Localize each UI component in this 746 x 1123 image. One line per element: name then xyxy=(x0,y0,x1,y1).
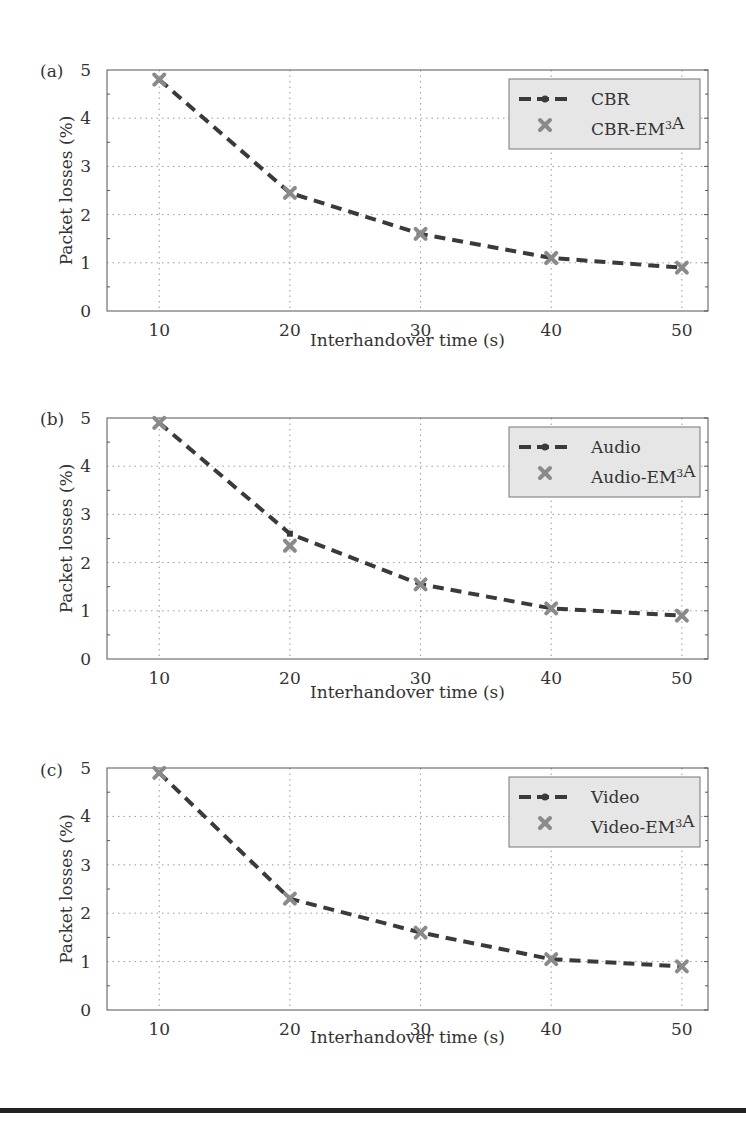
y-tick-label: 3 xyxy=(80,156,91,176)
y-tick-label: 5 xyxy=(80,60,91,80)
y-tick-label: 1 xyxy=(80,253,91,273)
bottom-rule xyxy=(0,1108,746,1113)
x-tick-label: 50 xyxy=(671,320,693,340)
panel-label: (a) xyxy=(40,61,63,81)
y-tick-label: 4 xyxy=(80,108,91,128)
y-axis-label: Packet losses (%) xyxy=(56,116,76,266)
chart-panel-c: 0123451020304050Interhandover time (s)Pa… xyxy=(40,758,708,1047)
y-tick-label: 1 xyxy=(80,952,91,972)
x-tick-label: 20 xyxy=(279,320,301,340)
y-tick-label: 2 xyxy=(80,903,91,923)
legend: AudioAudio-EM3A xyxy=(509,427,700,497)
y-tick-label: 3 xyxy=(80,504,91,524)
chart-panel-a: 0123451020304050Interhandover time (s)Pa… xyxy=(40,60,708,350)
x-tick-label: 10 xyxy=(148,1019,170,1039)
panel-label: (b) xyxy=(40,409,64,429)
x-tick-label: 20 xyxy=(279,1019,301,1039)
y-tick-label: 5 xyxy=(80,758,91,778)
legend: CBRCBR-EM3A xyxy=(509,79,700,149)
y-tick-label: 1 xyxy=(80,601,91,621)
y-axis-label: Packet losses (%) xyxy=(56,814,76,964)
x-marker-icon xyxy=(677,611,687,621)
y-tick-label: 4 xyxy=(80,456,91,476)
x-axis-label: Interhandover time (s) xyxy=(310,1027,505,1047)
x-tick-label: 40 xyxy=(540,668,562,688)
y-tick-label: 2 xyxy=(80,205,91,225)
x-marker-icon xyxy=(285,541,295,551)
x-tick-label: 50 xyxy=(671,668,693,688)
y-tick-label: 0 xyxy=(80,301,91,321)
y-tick-label: 3 xyxy=(80,855,91,875)
figure: 0123451020304050Interhandover time (s)Pa… xyxy=(0,0,746,1123)
y-tick-label: 2 xyxy=(80,553,91,573)
y-axis-label: Packet losses (%) xyxy=(56,464,76,614)
x-tick-label: 10 xyxy=(148,320,170,340)
panel-label: (c) xyxy=(40,760,63,780)
x-marker-icon xyxy=(285,188,295,198)
x-tick-label: 40 xyxy=(540,1019,562,1039)
y-tick-label: 4 xyxy=(80,806,91,826)
chart-panel-b: 0123451020304050Interhandover time (s)Pa… xyxy=(40,408,708,702)
y-tick-label: 0 xyxy=(80,1000,91,1020)
legend-label: CBR xyxy=(591,89,631,109)
x-tick-label: 40 xyxy=(540,320,562,340)
x-marker-icon xyxy=(677,263,687,273)
x-tick-label: 50 xyxy=(671,1019,693,1039)
x-tick-label: 10 xyxy=(148,668,170,688)
x-axis-label: Interhandover time (s) xyxy=(310,330,505,350)
legend-label: Audio xyxy=(590,437,641,457)
legend: VideoVideo-EM3A xyxy=(509,777,700,847)
y-tick-label: 5 xyxy=(80,408,91,428)
x-tick-label: 20 xyxy=(279,668,301,688)
x-axis-label: Interhandover time (s) xyxy=(310,682,505,702)
legend-label: Video xyxy=(590,787,640,807)
y-tick-label: 0 xyxy=(80,649,91,669)
